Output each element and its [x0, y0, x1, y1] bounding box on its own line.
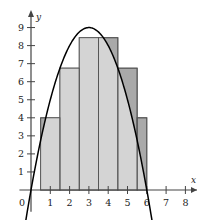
riemann-sum-figure: xy123456781234567890: [0, 0, 204, 220]
x-tick-label: 4: [105, 197, 111, 208]
x-tick-label: 3: [86, 197, 92, 208]
x-tick-label: 2: [67, 197, 73, 208]
y-tick-label: 1: [18, 166, 24, 177]
y-axis-label: y: [35, 12, 42, 22]
bar-rect-light: [79, 38, 98, 190]
x-tick-label: 8: [182, 197, 188, 208]
y-axis-arrow: [28, 10, 34, 17]
x-axis-label: x: [191, 175, 196, 185]
y-tick-label: 9: [18, 22, 24, 33]
x-tick-label: 5: [124, 197, 130, 208]
y-tick-label: 7: [18, 58, 24, 69]
y-tick-label: 4: [18, 112, 24, 123]
y-tick-label: 2: [18, 148, 24, 159]
origin-label: 0: [19, 197, 25, 208]
y-tick-label: 3: [18, 130, 24, 141]
plot-canvas: xy123456781234567890: [0, 0, 204, 220]
x-tick-label: 1: [47, 197, 53, 208]
x-tick-label: 7: [163, 197, 169, 208]
y-tick-label: 6: [18, 76, 24, 87]
y-tick-label: 8: [18, 40, 24, 51]
x-axis-arrow: [191, 187, 197, 193]
bar-rect-light: [60, 68, 79, 190]
y-tick-label: 5: [18, 94, 24, 105]
